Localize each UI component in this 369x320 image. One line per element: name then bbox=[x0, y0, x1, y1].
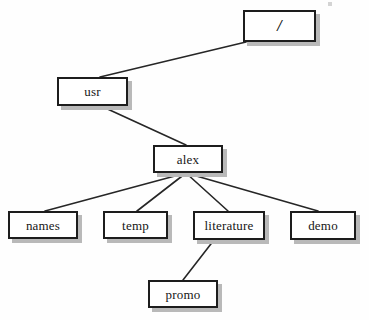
directory-tree-diagram: / usr alex names temp literature demo pr… bbox=[0, 0, 369, 320]
node-names[interactable]: names bbox=[8, 211, 78, 239]
tree-edge-literature-to-promo bbox=[183, 240, 214, 280]
tree-edge-alex-to-demo bbox=[186, 173, 318, 211]
node-names-label: names bbox=[26, 219, 60, 232]
node-usr[interactable]: usr bbox=[57, 77, 128, 106]
tree-edge-usr-to-alex bbox=[101, 106, 186, 145]
tree-edge-root-to-usr bbox=[100, 42, 246, 77]
tree-edge-alex-to-temp bbox=[137, 173, 186, 211]
node-promo[interactable]: promo bbox=[148, 280, 218, 308]
node-demo-label: demo bbox=[308, 219, 338, 232]
node-usr-label: usr bbox=[84, 85, 101, 98]
node-alex-label: alex bbox=[177, 153, 199, 166]
node-root-label: / bbox=[277, 18, 282, 34]
node-temp-label: temp bbox=[122, 219, 149, 232]
node-literature[interactable]: literature bbox=[193, 211, 265, 240]
tree-edge-alex-to-names bbox=[45, 173, 186, 211]
scan-artifact-speck bbox=[328, 2, 332, 6]
node-demo[interactable]: demo bbox=[290, 211, 356, 240]
node-literature-label: literature bbox=[205, 219, 254, 232]
node-promo-label: promo bbox=[166, 288, 201, 301]
node-root[interactable]: / bbox=[243, 10, 316, 42]
tree-edge-alex-to-literature bbox=[186, 173, 228, 211]
node-temp[interactable]: temp bbox=[103, 211, 168, 239]
node-alex[interactable]: alex bbox=[153, 145, 223, 173]
